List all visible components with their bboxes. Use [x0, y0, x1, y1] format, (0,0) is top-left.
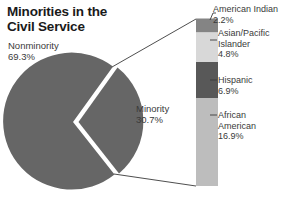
bar-label-american-indian-value: 2.2%	[213, 15, 290, 26]
pie-label-nonminority-name: Nonminority	[8, 40, 59, 51]
bar-segment-asian-pacific-islander	[196, 33, 218, 63]
pie-label-minority: Minority 30.7%	[136, 103, 169, 125]
bar-label-asian-pacific-islander: Asian/Pacific Islander 4.8%	[218, 28, 290, 60]
bar-label-asian-pacific-islander-value: 4.8%	[218, 49, 290, 60]
pie-label-minority-name: Minority	[136, 103, 169, 114]
pie-label-minority-value: 30.7%	[136, 114, 169, 125]
bar-segment-african-american	[196, 98, 218, 186]
bar-label-hispanic-value: 6.9%	[218, 86, 290, 97]
bar-label-african-american-name-2: American	[218, 121, 290, 132]
bar-label-african-american-value: 16.9%	[218, 131, 290, 142]
pie-label-nonminority: Nonminority 69.3%	[8, 40, 59, 62]
bar-label-hispanic: Hispanic 6.9%	[218, 75, 290, 96]
pie-label-nonminority-value: 69.3%	[8, 51, 59, 62]
bar-label-asian-pacific-islander-name-2: Islander	[218, 39, 290, 50]
bar-label-hispanic-name: Hispanic	[218, 75, 290, 86]
leader-line-bottom	[114, 174, 196, 186]
leader-line-top	[112, 19, 196, 67]
bar-label-african-american: African American 16.9%	[218, 110, 290, 142]
bar-label-african-american-name-1: African	[218, 110, 290, 121]
bar-label-american-indian: American Indian 2.2%	[213, 4, 290, 25]
bar-label-asian-pacific-islander-name-1: Asian/Pacific	[218, 28, 290, 39]
bar-label-american-indian-name: American Indian	[213, 4, 290, 15]
chart-figure: Minorities in the Civil Service Nonminor…	[0, 0, 290, 198]
